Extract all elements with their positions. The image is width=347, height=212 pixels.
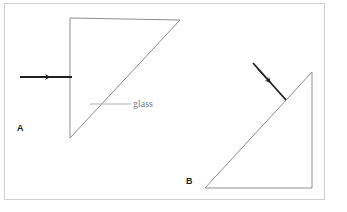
prism-triangle-b: [205, 72, 312, 188]
incident-ray-arrow-b-head: [258, 69, 269, 81]
panel-label-b: B: [186, 176, 193, 186]
glass-callout-label: glass: [133, 98, 153, 109]
incident-ray-arrow-b-shaft: [253, 63, 286, 100]
panel-label-a: A: [17, 123, 24, 133]
figure-canvas: [0, 0, 347, 212]
prism-triangle-a: [70, 18, 180, 138]
physics-refraction-figure: A B glass: [0, 0, 347, 212]
figure-frame-border: [5, 4, 325, 200]
